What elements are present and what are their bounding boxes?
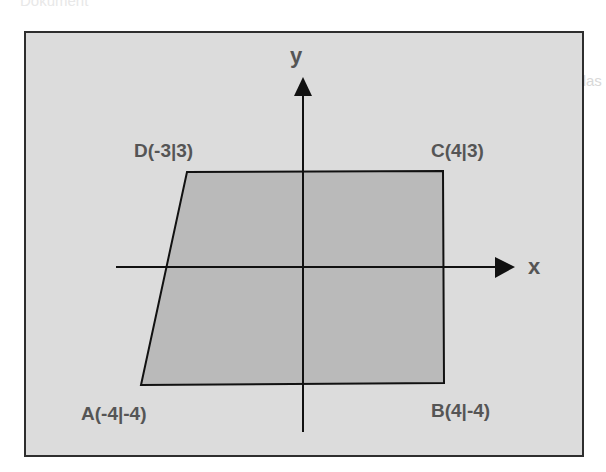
point-label-d: D(-3|3) [134,140,193,161]
y-axis-arrow-icon [294,77,312,96]
x-axis-label: x [528,254,541,279]
quadrilateral-abcd [141,171,444,385]
x-axis-arrow-icon [495,257,515,278]
point-label-b: B(4|-4) [431,400,490,421]
y-axis-label: y [290,43,303,68]
coordinate-diagram: y x D(-3|3) C(4|3) A(-4|-4) B(4|-4) [0,0,606,472]
point-label-a: A(-4|-4) [81,403,146,424]
point-label-c: C(4|3) [431,140,484,161]
